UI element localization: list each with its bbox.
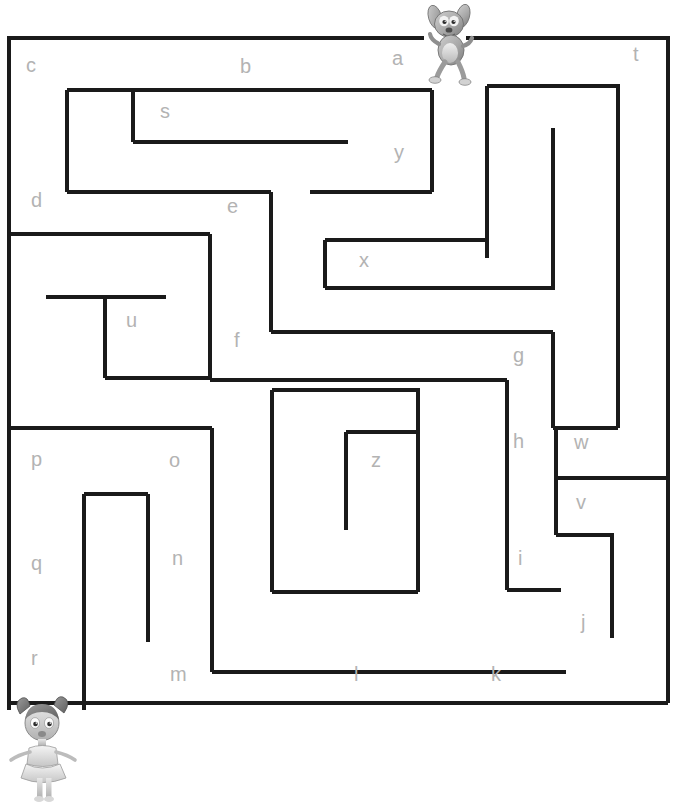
maze-letter-x: x (359, 250, 370, 270)
maze-letter-c: c (26, 55, 37, 75)
maze-letter-m: m (170, 664, 187, 684)
maze-letter-o: o (169, 450, 181, 470)
maze-letter-s: s (160, 101, 171, 121)
maze-letter-y: y (394, 142, 405, 162)
maze-letter-i: i (518, 548, 523, 568)
maze-letter-j: j (581, 612, 586, 632)
maze-letter-z: z (371, 450, 382, 470)
dog-character-icon (420, 4, 482, 90)
maze-letter-v: v (576, 492, 587, 512)
maze-letter-d: d (31, 190, 43, 210)
wall-group (7, 38, 670, 710)
girl-character-icon (6, 692, 82, 804)
maze-letter-p: p (31, 449, 43, 469)
maze-letter-k: k (491, 664, 502, 684)
maze-letter-l: l (354, 664, 359, 684)
maze-letter-f: f (234, 330, 240, 350)
maze-letter-w: w (574, 432, 589, 452)
maze-letter-t: t (633, 44, 639, 64)
maze-letter-b: b (240, 56, 252, 76)
maze-letter-e: e (227, 196, 239, 216)
maze-walls (0, 0, 678, 808)
maze-canvas: abcdefghijklmnopqrstuvwxyz (0, 0, 678, 808)
maze-letter-r: r (31, 648, 38, 668)
maze-letter-q: q (31, 553, 43, 573)
maze-letter-a: a (392, 48, 404, 68)
maze-letter-n: n (172, 548, 184, 568)
maze-letter-u: u (126, 310, 138, 330)
maze-letter-g: g (513, 345, 525, 365)
maze-letter-h: h (513, 431, 525, 451)
